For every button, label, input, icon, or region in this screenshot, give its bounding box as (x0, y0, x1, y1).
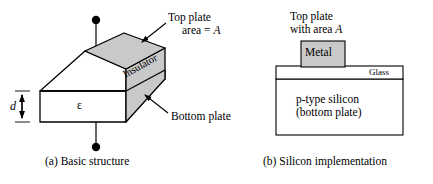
top-plate-b-line2: with area (290, 23, 335, 35)
caption-panel-a: (a) Basic structure (45, 155, 129, 167)
top-plate-label-b: Top plate with area A (290, 10, 342, 36)
glass-label: Glass (369, 67, 389, 77)
top-plate-b-line1: Top plate (290, 10, 333, 22)
top-plate-b-area-symbol: A (335, 23, 342, 35)
metal-label: Metal (305, 46, 332, 59)
glass-label-text: Glass (369, 67, 389, 77)
bottom-plate-label-text: Bottom plate (171, 110, 231, 122)
bottom-plate-leader-arrow (145, 95, 168, 113)
thickness-dimension-arrow (15, 91, 30, 122)
silicon-label-line1: p-type silicon (296, 93, 359, 105)
caption-panel-a-text: (a) Basic structure (45, 155, 129, 167)
top-plate-area-text: area = (182, 24, 213, 36)
thickness-symbol-text: d (10, 99, 16, 113)
caption-panel-b-text: (b) Silicon implementation (263, 155, 387, 167)
top-plate-leader-arrow (142, 23, 166, 42)
bottom-terminal (92, 122, 100, 151)
caption-panel-b: (b) Silicon implementation (263, 155, 387, 167)
top-plate-label-line1: Top plate (168, 11, 211, 23)
top-plate-label-a: Top plate area = A (168, 11, 220, 37)
top-plate-area-symbol: A (213, 24, 220, 36)
bottom-plate-label-a: Bottom plate (171, 110, 231, 123)
dielectric-front-face (40, 91, 126, 122)
capacitor-structure-figure: Top plate area = A Bottom plate Insulato… (0, 0, 433, 184)
permittivity-symbol-text: ε (77, 99, 82, 111)
permittivity-label: ε (77, 99, 82, 112)
silicon-label: p-type silicon (bottom plate) (296, 93, 361, 119)
silicon-label-line2: (bottom plate) (296, 106, 361, 118)
metal-label-text: Metal (305, 46, 332, 58)
thickness-label: d (10, 100, 16, 113)
